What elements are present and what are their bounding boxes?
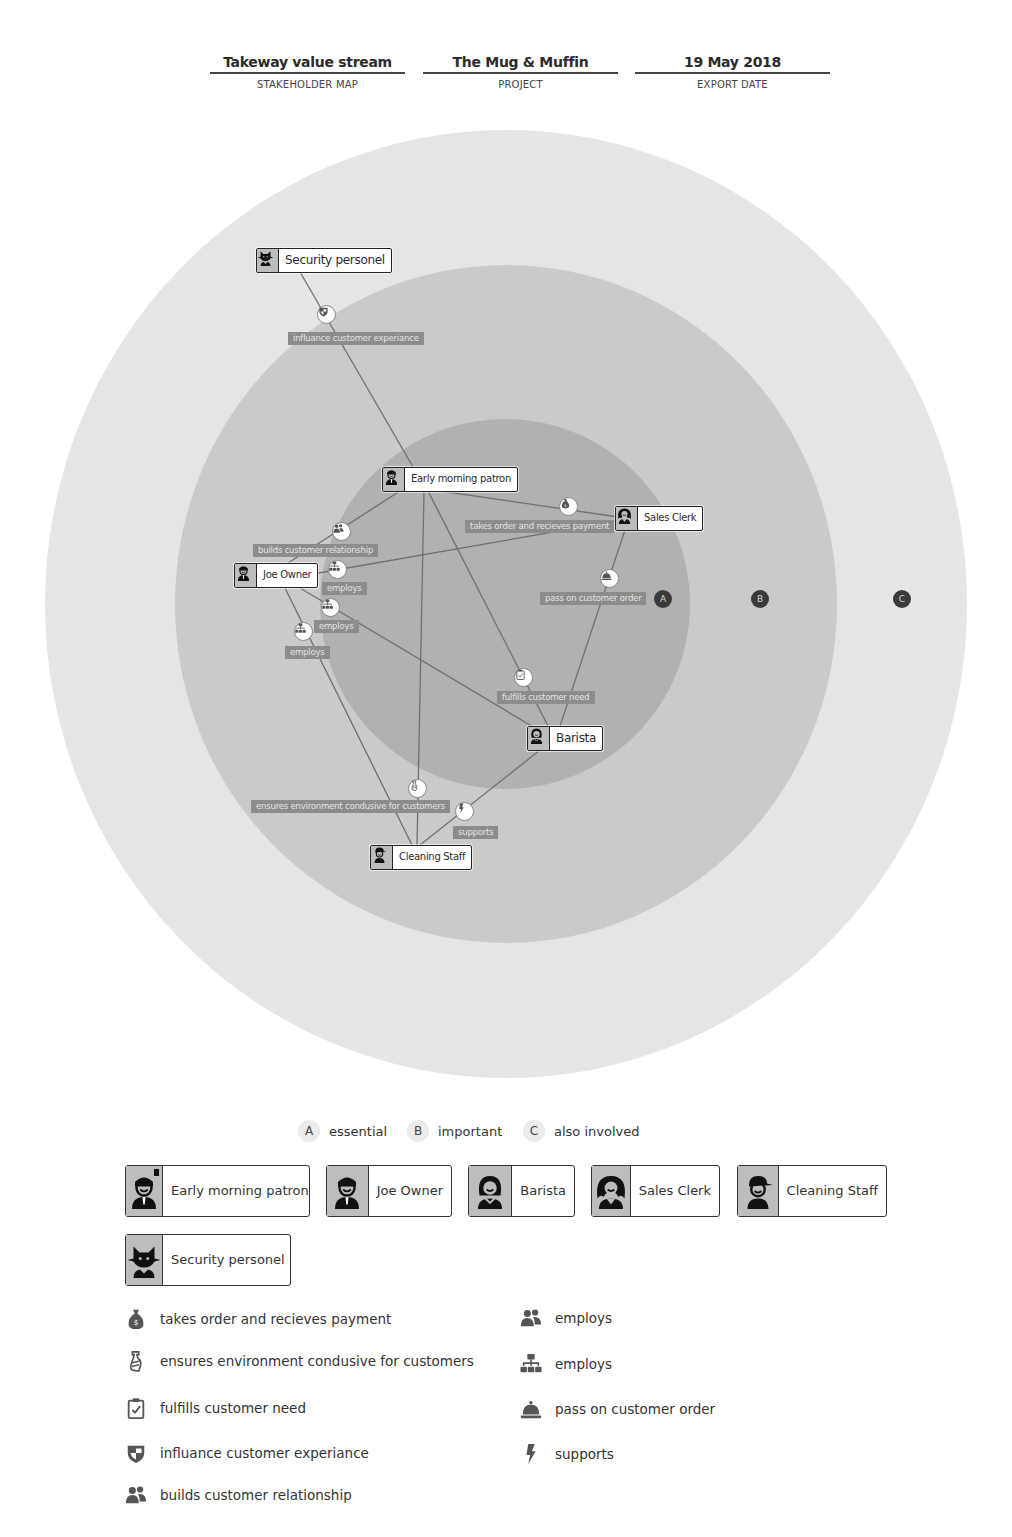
edge-label-pass-on[interactable]: pass on customer order [540, 592, 646, 605]
legend-rel-employs-people: employs [519, 1306, 612, 1330]
edge-label-takes-order[interactable]: takes order and recieves payment [465, 520, 614, 533]
card-label: Joe Owner [369, 1166, 451, 1216]
cat-icon [126, 1235, 163, 1285]
legend-rel-builds: builds customer relationship [124, 1483, 352, 1507]
node-barista[interactable]: Barista [527, 726, 603, 751]
ring-badge-b: B [751, 590, 769, 608]
service-bell-icon[interactable] [600, 569, 619, 588]
ring-badge-c: C [893, 590, 911, 608]
edge-label-influance[interactable]: influance customer experiance [288, 332, 424, 345]
edge-label-employs-1[interactable]: employs [322, 582, 367, 595]
money-bag-icon [124, 1307, 148, 1331]
people-icon [519, 1306, 543, 1330]
lightning-icon[interactable] [455, 802, 474, 821]
clipboard-check-icon[interactable] [514, 668, 533, 687]
rel-label: fulfills customer need [160, 1400, 306, 1416]
rel-label: supports [555, 1446, 614, 1462]
ring-badge-a: A [654, 590, 672, 608]
org-chart-icon[interactable] [294, 622, 313, 641]
level-legend: A essential B important C also involved [0, 1120, 1012, 1144]
people-icon[interactable] [332, 522, 351, 541]
card-label: Barista [512, 1166, 574, 1216]
legend-rel-employs-org: employs [519, 1352, 612, 1376]
level-badge: A [298, 1120, 320, 1142]
legend-card-barista: Barista [468, 1165, 575, 1217]
legend-rel-ensures: ensures environment condusive for custom… [124, 1349, 474, 1373]
rel-label: pass on customer order [555, 1401, 715, 1417]
rel-label: employs [555, 1310, 612, 1326]
level-label: important [438, 1124, 502, 1139]
spray-bottle-icon [124, 1349, 148, 1373]
woman-icon [528, 727, 550, 750]
level-badge: C [523, 1120, 545, 1142]
node-label: Early morning patron [405, 468, 517, 491]
man-icon [126, 1166, 163, 1216]
level-label: also involved [554, 1124, 640, 1139]
org-chart-icon [519, 1352, 543, 1376]
legend-card-security-personel: Security personel [125, 1234, 291, 1286]
node-label: Barista [550, 727, 602, 750]
cap-man-icon [738, 1166, 779, 1216]
legend-rel-fulfills: fulfills customer need [124, 1396, 306, 1420]
legend-card-sales-clerk: Sales Clerk [591, 1165, 720, 1217]
money-bag-icon[interactable] [559, 497, 578, 516]
card-label: Cleaning Staff [779, 1166, 886, 1216]
spray-bottle-icon[interactable] [408, 779, 427, 798]
man-icon [235, 564, 257, 587]
legend-card-cleaning-staff: Cleaning Staff [737, 1165, 887, 1217]
shield-icon[interactable] [317, 305, 336, 324]
node-label: Joe Owner [257, 564, 317, 587]
rel-label: takes order and recieves payment [160, 1311, 391, 1327]
node-joe-owner[interactable]: Joe Owner [234, 563, 318, 588]
edge-label-fulfills[interactable]: fulfills customer need [497, 691, 595, 704]
node-cleaning-staff[interactable]: Cleaning Staff [370, 845, 472, 870]
level-also-involved: C also involved [523, 1120, 640, 1142]
rel-label: builds customer relationship [160, 1487, 352, 1503]
service-bell-icon [519, 1397, 543, 1421]
legend-rel-pass-on: pass on customer order [519, 1397, 715, 1421]
map-canvas [0, 0, 1012, 1100]
curly-woman-icon [592, 1166, 631, 1216]
shield-icon [124, 1441, 148, 1465]
man-icon [383, 468, 405, 491]
cat-icon [257, 249, 279, 272]
clipboard-check-icon [124, 1396, 148, 1420]
card-label: Security personel [163, 1235, 293, 1285]
woman-icon [469, 1166, 512, 1216]
edge-label-ensures[interactable]: ensures environment condusive for custom… [251, 800, 450, 813]
node-early-morning-patron[interactable]: Early morning patron [382, 467, 518, 492]
lightning-icon [519, 1442, 543, 1466]
cap-man-icon [371, 846, 393, 869]
level-essential: A essential [298, 1120, 387, 1142]
org-chart-icon[interactable] [328, 560, 347, 579]
rel-label: influance customer experiance [160, 1445, 369, 1461]
node-security-personel[interactable]: Security personel [256, 248, 392, 273]
legend-card-joe-owner: Joe Owner [326, 1165, 452, 1217]
org-chart-icon[interactable] [321, 598, 340, 617]
level-important: B important [407, 1120, 502, 1142]
node-label: Sales Clerk [638, 507, 702, 530]
legend-rel-supports: supports [519, 1442, 614, 1466]
edge-label-employs-2[interactable]: employs [314, 620, 359, 633]
edge-label-supports[interactable]: supports [453, 826, 498, 839]
man-icon [327, 1166, 369, 1216]
edge-label-builds[interactable]: builds customer relationship [253, 544, 378, 557]
level-label: essential [329, 1124, 387, 1139]
card-label: Early morning patron [163, 1166, 317, 1216]
card-label: Sales Clerk [631, 1166, 719, 1216]
level-badge: B [407, 1120, 429, 1142]
stakeholder-map: influance customer experiance takes orde… [0, 0, 1012, 1100]
rel-label: employs [555, 1356, 612, 1372]
node-label: Security personel [279, 249, 391, 272]
people-icon [124, 1483, 148, 1507]
edge-label-employs-3[interactable]: employs [285, 646, 330, 659]
legend-rel-influance: influance customer experiance [124, 1441, 369, 1465]
node-sales-clerk[interactable]: Sales Clerk [615, 506, 703, 531]
curly-woman-icon [616, 507, 638, 530]
node-label: Cleaning Staff [393, 846, 471, 869]
rel-label: ensures environment condusive for custom… [160, 1353, 474, 1369]
legend-card-early-morning-patron: Early morning patron [125, 1165, 310, 1217]
legend-rel-takes-order: takes order and recieves payment [124, 1307, 391, 1331]
